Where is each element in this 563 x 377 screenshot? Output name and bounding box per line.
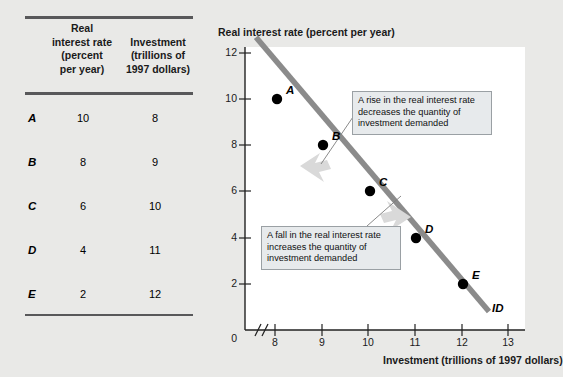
data-point-e [458, 279, 468, 289]
row-real-interest-rate: 8 [55, 156, 111, 168]
annotation-fall-increases-quantity: A fall in the real interest rate increas… [261, 226, 401, 270]
y-tick-label-12: 12 [215, 46, 237, 58]
curve-label-id: ID [492, 302, 504, 314]
row-real-interest-rate: 6 [55, 200, 111, 212]
column-header-real-interest-rate: Real interest rate (percent per year) [43, 22, 121, 76]
row-label: D [28, 244, 42, 256]
header-line-3: (percent [43, 49, 121, 63]
table-row: D 4 11 [25, 244, 195, 262]
data-point-b [318, 140, 328, 150]
y-tick-label-10: 10 [215, 92, 237, 104]
row-investment: 8 [123, 112, 187, 124]
row-label: E [28, 288, 42, 300]
table-row: A 10 8 [25, 112, 195, 130]
investment-demand-chart: Real interest rate (percent per year) In… [215, 14, 535, 364]
row-real-interest-rate: 4 [55, 244, 111, 256]
row-label: C [28, 200, 42, 212]
row-investment: 12 [123, 288, 187, 300]
column-header-investment: Investment (trillions of 1997 dollars) [121, 36, 195, 77]
row-label: B [28, 156, 42, 168]
header-line-1: Real [43, 22, 121, 36]
table-bottom-rule [25, 314, 193, 316]
point-label-c: C [379, 176, 387, 188]
point-label-d: D [425, 223, 433, 235]
data-point-d [411, 233, 421, 243]
x-tick-label-10: 10 [358, 336, 378, 348]
header-line-3: 1997 dollars) [121, 63, 195, 77]
table-row: E 2 12 [25, 288, 195, 306]
investment-demand-curve [256, 37, 489, 311]
row-label: A [28, 112, 42, 124]
x-tick-label-12: 12 [452, 336, 472, 348]
annotation-rise-decreases-quantity: A rise in the real interest rate decreas… [352, 91, 492, 135]
header-line-4: per year) [43, 63, 121, 77]
y-tick-label-8: 8 [215, 138, 237, 150]
table-row: B 8 9 [25, 156, 195, 174]
data-point-a [272, 94, 282, 104]
data-point-c [365, 186, 375, 196]
point-label-b: B [332, 130, 340, 142]
row-real-interest-rate: 10 [55, 112, 111, 124]
arrow-up-along-curve [300, 153, 331, 182]
header-line-2: (trillions of [121, 49, 195, 63]
row-investment: 9 [123, 156, 187, 168]
point-label-a: A [286, 84, 294, 96]
y-tick-label-2: 2 [215, 277, 237, 289]
investment-demand-table: Real interest rate (percent per year) In… [25, 16, 211, 336]
table-header-rule [25, 92, 193, 95]
header-line-2: interest rate [43, 36, 121, 50]
x-tick-label-9: 9 [312, 336, 332, 348]
y-tick-label-4: 4 [215, 231, 237, 243]
x-tick-label-8: 8 [265, 336, 285, 348]
table-row: C 6 10 [25, 200, 195, 218]
table-header-row: Real interest rate (percent per year) In… [25, 22, 193, 90]
y-tick-label-6: 6 [215, 184, 237, 196]
header-line-1: Investment [121, 36, 195, 50]
point-label-e: E [472, 269, 480, 281]
row-investment: 10 [123, 200, 187, 212]
y-tick-label-0: 0 [215, 332, 237, 344]
row-investment: 11 [123, 244, 187, 256]
movement-arrows [300, 153, 411, 230]
chart-svg [215, 14, 535, 364]
x-tick-label-13: 13 [498, 336, 518, 348]
x-tick-label-11: 11 [405, 336, 425, 348]
row-real-interest-rate: 2 [55, 288, 111, 300]
table-top-rule [25, 16, 193, 19]
